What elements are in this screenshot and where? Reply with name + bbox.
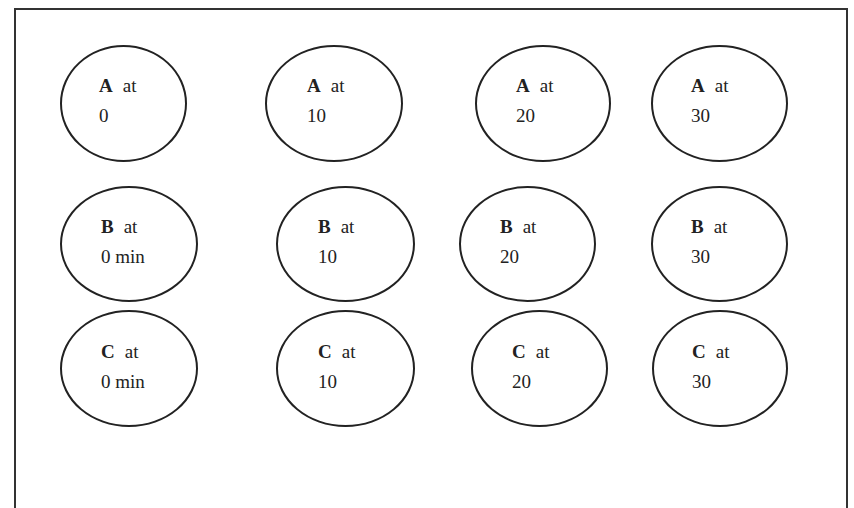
- time-value: 0: [99, 101, 136, 131]
- connector-word: at: [714, 216, 728, 237]
- sample-letter: C: [101, 341, 115, 362]
- node-b-30: Bat30: [651, 186, 788, 302]
- connector-word: at: [715, 75, 729, 96]
- node-label: Bat30: [691, 212, 727, 272]
- time-value: 30: [692, 367, 729, 397]
- label-line-1: Bat: [691, 212, 727, 242]
- time-value: 20: [500, 242, 536, 272]
- node-label: Cat30: [692, 337, 729, 397]
- sample-letter: A: [516, 75, 530, 96]
- node-label: Cat20: [512, 337, 549, 397]
- node-c-20: Cat20: [471, 310, 608, 427]
- time-value: 0 min: [101, 367, 145, 397]
- label-line-1: Aat: [99, 71, 136, 101]
- connector-word: at: [124, 216, 138, 237]
- label-line-1: Cat: [512, 337, 549, 367]
- node-b-20: Bat20: [459, 186, 596, 302]
- label-line-1: Cat: [318, 337, 355, 367]
- sample-letter: B: [101, 216, 114, 237]
- label-line-1: Bat: [318, 212, 354, 242]
- connector-word: at: [342, 341, 356, 362]
- node-c-0-min: Cat0 min: [60, 310, 198, 427]
- connector-word: at: [341, 216, 355, 237]
- connector-word: at: [331, 75, 345, 96]
- sample-letter: B: [691, 216, 704, 237]
- node-a-30: Aat30: [651, 45, 788, 162]
- time-value: 0 min: [101, 242, 145, 272]
- time-value: 20: [516, 101, 553, 131]
- node-c-10: Cat10: [276, 310, 415, 427]
- node-label: Aat20: [516, 71, 553, 131]
- node-a-20: Aat20: [475, 45, 611, 162]
- node-label: Aat10: [307, 71, 344, 131]
- connector-word: at: [540, 75, 554, 96]
- node-label: Bat10: [318, 212, 354, 272]
- node-label: Cat0 min: [101, 337, 145, 397]
- time-value: 30: [691, 242, 727, 272]
- sample-letter: B: [500, 216, 513, 237]
- node-label: Cat10: [318, 337, 355, 397]
- sample-letter: A: [99, 75, 113, 96]
- label-line-1: Bat: [500, 212, 536, 242]
- label-line-1: Cat: [692, 337, 729, 367]
- node-label: Bat0 min: [101, 212, 145, 272]
- time-value: 10: [318, 367, 355, 397]
- node-label: Aat30: [691, 71, 728, 131]
- label-line-1: Aat: [691, 71, 728, 101]
- connector-word: at: [125, 341, 139, 362]
- time-value: 20: [512, 367, 549, 397]
- time-value: 10: [318, 242, 354, 272]
- sample-letter: A: [691, 75, 705, 96]
- connector-word: at: [716, 341, 730, 362]
- sample-letter: C: [318, 341, 332, 362]
- connector-word: at: [536, 341, 550, 362]
- label-line-1: Bat: [101, 212, 145, 242]
- node-a-0: Aat0: [60, 45, 187, 162]
- connector-word: at: [523, 216, 537, 237]
- sample-letter: B: [318, 216, 331, 237]
- connector-word: at: [123, 75, 137, 96]
- node-a-10: Aat10: [265, 45, 403, 162]
- label-line-1: Aat: [307, 71, 344, 101]
- node-b-0-min: Bat0 min: [60, 186, 198, 302]
- time-value: 30: [691, 101, 728, 131]
- node-label: Aat0: [99, 71, 136, 131]
- label-line-1: Cat: [101, 337, 145, 367]
- time-value: 10: [307, 101, 344, 131]
- sample-letter: C: [692, 341, 706, 362]
- sample-letter: C: [512, 341, 526, 362]
- node-b-10: Bat10: [276, 186, 415, 302]
- node-label: Bat20: [500, 212, 536, 272]
- label-line-1: Aat: [516, 71, 553, 101]
- node-c-30: Cat30: [652, 310, 788, 427]
- sample-letter: A: [307, 75, 321, 96]
